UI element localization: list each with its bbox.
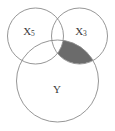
set-label-x3: X3 [75, 25, 87, 39]
circle-outline-x5 [8, 8, 64, 64]
set-label-y-base: Y [53, 83, 61, 95]
venn-diagram-canvas: X5 X3 Y [0, 0, 115, 131]
set-label-x5: X5 [23, 25, 35, 39]
set-label-x5-base: X [23, 25, 31, 37]
set-label-x5-subscript: 5 [31, 29, 35, 38]
set-label-x3-base: X [75, 25, 83, 37]
set-label-y: Y [53, 83, 61, 95]
venn-diagram: X5 X3 Y [0, 0, 115, 131]
set-label-x3-subscript: 3 [83, 29, 87, 38]
